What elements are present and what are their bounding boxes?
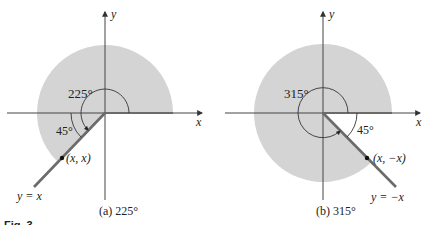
ref-angle-arc-45 xyxy=(347,113,357,137)
figure-label: Fig. 3 xyxy=(4,219,33,225)
panel-b: 315° 45° (x, −x) y = −x x y (b) 315° xyxy=(225,7,422,218)
point-x-neg-x xyxy=(365,156,369,160)
point-label-b: (x, −x) xyxy=(373,151,406,165)
y-axis-label-b: y xyxy=(328,7,335,21)
figure-canvas: 225° 45° (x, x) y = x x y (a) 225° 315° … xyxy=(0,0,431,225)
y-axis-label-a: y xyxy=(110,7,117,21)
panel-a: 225° 45° (x, x) y = x x y (a) 225° xyxy=(7,7,202,218)
line-label-a: y = x xyxy=(16,189,42,203)
angle-label-a: 225° xyxy=(68,86,93,101)
caption-a: (a) 225° xyxy=(99,204,138,218)
point-x-x xyxy=(60,156,64,160)
angle-label-b: 315° xyxy=(284,86,309,101)
ref-angle-label-a: 45° xyxy=(56,124,73,138)
caption-b: (b) 315° xyxy=(316,204,356,218)
x-axis-label-a: x xyxy=(195,115,202,129)
x-axis-label-b: x xyxy=(415,115,422,129)
ref-angle-label-b: 45° xyxy=(357,123,374,137)
point-label-a: (x, x) xyxy=(66,151,91,165)
line-label-b: y = −x xyxy=(370,190,405,204)
